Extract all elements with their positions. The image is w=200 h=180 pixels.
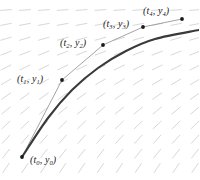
slope-field-dash bbox=[20, 65, 30, 70]
slope-field-dash bbox=[1, 23, 12, 25]
slope-field-dash bbox=[154, 163, 160, 172]
slope-field-dash bbox=[135, 135, 142, 143]
slope-field-dash bbox=[172, 135, 179, 143]
slope-field-dash bbox=[59, 121, 67, 129]
data-point-marker-p3 bbox=[141, 25, 145, 29]
slope-field-dash bbox=[78, 121, 86, 129]
slope-field-dash bbox=[39, 93, 48, 99]
slope-field-dash bbox=[154, 135, 161, 143]
euler-method-figure: (t0, y0) (t1, y1) (t2, y2) (t3, y3) (t4,… bbox=[0, 0, 199, 180]
slope-field-dash bbox=[135, 163, 141, 172]
slope-field-dash bbox=[152, 51, 162, 55]
slope-field-dash bbox=[153, 121, 161, 129]
slope-field-dash bbox=[3, 149, 10, 158]
slope-field-dash bbox=[190, 79, 199, 85]
slope-field-dash bbox=[171, 79, 180, 85]
slope-field-dash bbox=[78, 149, 85, 158]
slope-field-dash bbox=[1, 37, 12, 40]
slope-field-dash bbox=[95, 37, 106, 40]
slope-field-dash bbox=[190, 23, 199, 25]
point-label-p1: (t1, y1) bbox=[17, 74, 43, 84]
slope-field-dash bbox=[39, 65, 49, 70]
slope-field-dash bbox=[191, 121, 199, 129]
slope-field-dash bbox=[39, 37, 50, 40]
point-label-p2: (t2, y2) bbox=[60, 38, 86, 48]
slope-field-dash bbox=[60, 163, 66, 172]
slope-field-dash bbox=[97, 121, 105, 129]
slope-field-dash bbox=[190, 65, 199, 70]
slope-field-dash bbox=[38, 10, 49, 11]
slope-field-dash bbox=[97, 135, 104, 143]
slope-field-dash bbox=[171, 65, 181, 70]
slope-field-dash bbox=[190, 37, 199, 40]
slope-field-dash bbox=[133, 65, 143, 70]
slope-field-dash bbox=[116, 149, 123, 158]
slope-field-dash bbox=[191, 135, 198, 143]
slope-field-dash bbox=[191, 93, 200, 99]
point-label-p4: (t4, y4) bbox=[143, 6, 169, 16]
slope-field-dash bbox=[96, 93, 105, 99]
slope-field-dash bbox=[95, 10, 106, 11]
slope-field-dash bbox=[173, 163, 179, 172]
slope-field-dash bbox=[21, 121, 29, 129]
slope-field-dash bbox=[115, 121, 123, 129]
slope-field-dash bbox=[59, 135, 66, 143]
slope-field-dash bbox=[192, 163, 198, 172]
slope-field-dash bbox=[59, 149, 66, 158]
slope-field-dash bbox=[20, 93, 29, 99]
slope-field-dash bbox=[171, 51, 181, 55]
slope-field-dash bbox=[58, 51, 68, 55]
slope-field-dash bbox=[154, 149, 161, 158]
slope-field-dash bbox=[19, 10, 30, 11]
slope-field-dash bbox=[153, 93, 162, 99]
slope-field-dash bbox=[172, 121, 180, 129]
slope-field-dash bbox=[133, 51, 143, 55]
slope-field-dash bbox=[79, 163, 85, 172]
slope-field-dash bbox=[116, 135, 123, 143]
slope-field-dash bbox=[2, 107, 11, 114]
slope-field-dash bbox=[58, 107, 66, 114]
slope-field-dash bbox=[97, 149, 104, 158]
slope-field-dash bbox=[153, 107, 162, 114]
slope-field-dash bbox=[134, 121, 142, 129]
slope-field-dash bbox=[192, 149, 199, 158]
slope-field-dash bbox=[1, 10, 12, 11]
slope-field-dash bbox=[114, 65, 124, 70]
slope-field-dash bbox=[78, 135, 85, 143]
point-label-p0: (t0, y0) bbox=[30, 155, 56, 165]
slope-field-dash bbox=[115, 107, 124, 114]
solution-curve bbox=[22, 30, 199, 157]
slope-field-dash bbox=[171, 10, 182, 11]
slope-field-dash bbox=[134, 107, 143, 114]
slope-field-dash bbox=[39, 51, 49, 55]
slope-field-dash bbox=[190, 10, 199, 11]
slope-field-dash bbox=[57, 23, 68, 25]
slope-field-dash bbox=[191, 107, 199, 114]
slope-field-dash bbox=[1, 79, 10, 85]
slope-field-dash bbox=[76, 51, 86, 55]
slope-field-dash bbox=[1, 51, 11, 55]
slope-field-dash bbox=[134, 93, 143, 99]
slope-field-dash bbox=[40, 135, 47, 143]
slope-field-dash bbox=[40, 107, 49, 114]
slope-field-dash bbox=[21, 135, 28, 143]
slope-field-dash bbox=[96, 79, 105, 85]
slope-field-dash bbox=[152, 79, 161, 85]
slope-field-dash bbox=[115, 79, 124, 85]
slope-field-dash bbox=[57, 10, 68, 11]
slope-field-dash bbox=[171, 23, 182, 25]
point-label-p3: (t3, y3) bbox=[103, 19, 129, 29]
slope-field-dash bbox=[133, 23, 144, 25]
slope-field-dash bbox=[96, 107, 105, 114]
slope-field-dash bbox=[116, 163, 122, 172]
slope-field-dash bbox=[21, 107, 30, 114]
slope-field-dash bbox=[171, 37, 182, 40]
slope-field bbox=[1, 10, 199, 173]
slope-field-plot bbox=[0, 0, 199, 180]
slope-field-dash bbox=[115, 93, 124, 99]
data-point-marker-p2 bbox=[101, 43, 105, 47]
slope-field-dash bbox=[77, 93, 86, 99]
slope-field-dash bbox=[20, 23, 31, 25]
slope-field-dash bbox=[20, 37, 31, 40]
slope-field-dash bbox=[97, 163, 103, 172]
